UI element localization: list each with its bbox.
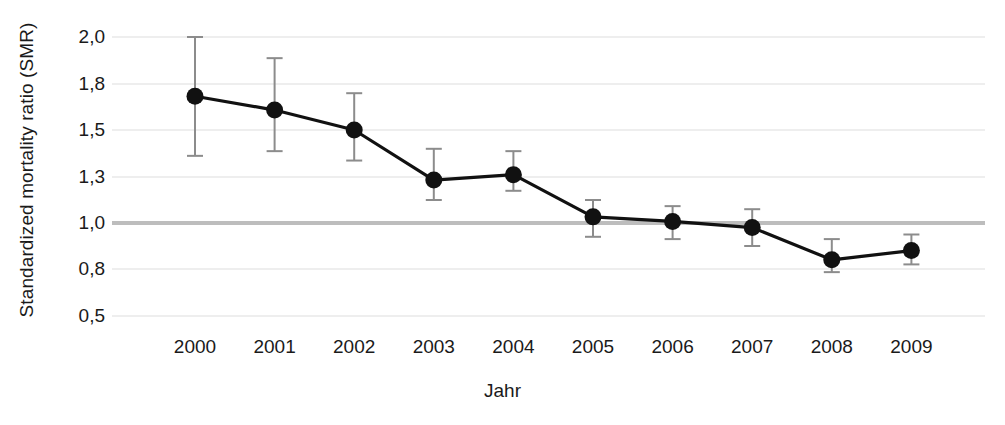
x-tick-label: 2005 [553,336,633,358]
data-point[interactable] [187,88,204,105]
x-tick-label: 2002 [314,336,394,358]
x-tick-label: 2008 [792,336,872,358]
x-axis-label: Jahr [0,380,1005,402]
data-point[interactable] [744,219,761,236]
data-point[interactable] [425,172,442,189]
series-line [195,96,911,260]
x-tick-label: 2009 [871,336,951,358]
x-tick-label: 2003 [394,336,474,358]
error-bars [187,37,919,272]
x-tick-label: 2004 [473,336,553,358]
x-tick-label: 2001 [235,336,315,358]
data-point[interactable] [823,251,840,268]
x-tick-label: 2006 [633,336,713,358]
data-point[interactable] [585,208,602,225]
data-point[interactable] [505,166,522,183]
data-point[interactable] [664,213,681,230]
x-tick-label: 2000 [155,336,235,358]
data-point[interactable] [903,242,920,259]
gridlines [112,37,985,316]
data-point[interactable] [266,102,283,119]
plot-area [0,0,1005,425]
x-tick-label: 2007 [712,336,792,358]
data-point[interactable] [346,122,363,139]
chart-figure: Standardized mortality ratio (SMR) 2,01,… [0,0,1005,425]
